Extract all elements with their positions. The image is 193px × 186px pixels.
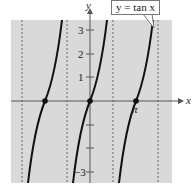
y-tick-neg3: −3 bbox=[74, 167, 86, 178]
plot bbox=[0, 0, 193, 186]
y-axis-label: y bbox=[86, 0, 91, 11]
x-axis-label: x bbox=[186, 95, 191, 106]
y-tick-3: 3 bbox=[78, 25, 84, 36]
tan-graph: y = tan x x y π 3 2 1 −3 bbox=[0, 0, 193, 186]
y-tick-1: 1 bbox=[78, 72, 84, 83]
x-arrow-icon bbox=[178, 98, 184, 104]
function-label: y = tan x bbox=[111, 0, 160, 15]
x-tick-pi: π bbox=[132, 104, 138, 115]
y-tick-2: 2 bbox=[78, 49, 84, 60]
